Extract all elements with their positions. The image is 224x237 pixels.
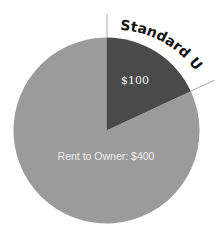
pie-chart: Standard UA $100 Rent to Owner: $400 (0, 0, 224, 237)
slice-label-rent-to-owner: Rent to Owner: $400 (58, 150, 155, 162)
callout-tick-right (191, 80, 215, 91)
slice-label-standard-ua: $100 (121, 74, 149, 87)
